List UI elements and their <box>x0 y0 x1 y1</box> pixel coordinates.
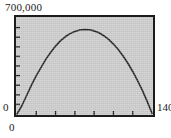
x-axis-max-label: 140 <box>157 101 171 113</box>
plot-svg <box>16 17 153 115</box>
y-axis-min-label: 0 <box>3 101 9 113</box>
y-axis-tick-marks <box>16 28 20 105</box>
x-axis-min-label: 0 <box>9 121 15 133</box>
plot-area <box>14 15 155 117</box>
data-curve <box>17 30 152 114</box>
y-axis-max-label: 700,000 <box>5 1 42 13</box>
x-axis-tick-marks <box>36 111 132 115</box>
chart-figure: 700,000 0 0 140 <box>0 0 171 138</box>
